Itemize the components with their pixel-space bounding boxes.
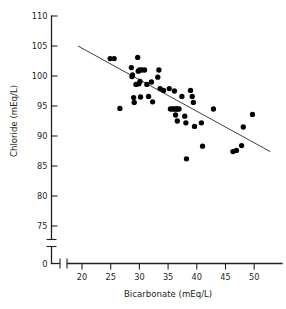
data-point	[142, 67, 147, 72]
data-point	[179, 94, 184, 99]
y-axis-tick-label: 85	[37, 161, 47, 171]
data-point	[130, 72, 135, 77]
data-point	[149, 79, 154, 84]
y-axis-tick-label: 110	[32, 11, 48, 21]
data-point	[129, 65, 134, 70]
data-point-group	[107, 55, 255, 162]
data-point	[250, 112, 255, 117]
data-point	[211, 106, 216, 111]
data-point	[172, 88, 177, 93]
data-point	[241, 124, 246, 129]
data-point	[175, 118, 180, 123]
y-axis-title: Chloride (mEq/L)	[9, 85, 19, 157]
x-axis-tick-label: 30	[134, 272, 144, 282]
data-point	[239, 143, 244, 148]
data-point	[132, 100, 137, 105]
data-point	[192, 124, 197, 129]
data-point	[146, 94, 151, 99]
x-axis-title: Bicarbonate (mEq/L)	[124, 289, 212, 299]
data-point	[131, 95, 136, 100]
data-point	[150, 99, 155, 104]
data-point	[183, 120, 188, 125]
data-point	[190, 94, 195, 99]
y-axis-tick-label: 80	[37, 191, 47, 201]
data-point	[137, 79, 142, 84]
data-point	[111, 56, 116, 61]
x-axis-tick-label: 50	[249, 272, 259, 282]
y-axis-tick-label: 75	[37, 221, 47, 231]
chart-canvas: 7580859095100105110020253035404550Bicarb…	[0, 0, 286, 309]
x-axis-tick-label: 40	[192, 272, 202, 282]
y-axis-tick-label: 100	[32, 71, 48, 81]
data-point	[199, 120, 204, 125]
data-point	[167, 86, 172, 91]
y-axis-origin-label: 0	[42, 259, 47, 269]
data-point	[234, 148, 239, 153]
y-axis-tick-label: 90	[37, 131, 47, 141]
data-point	[191, 100, 196, 105]
y-axis-tick-label: 95	[37, 101, 47, 111]
data-point	[138, 94, 143, 99]
data-point	[144, 82, 149, 87]
data-point	[200, 144, 205, 149]
data-point	[188, 88, 193, 93]
data-point	[155, 75, 160, 80]
data-point	[182, 114, 187, 119]
data-point	[176, 106, 181, 111]
data-point	[117, 106, 122, 111]
scatter-plot-figure: 7580859095100105110020253035404550Bicarb…	[0, 0, 286, 309]
data-point	[161, 88, 166, 93]
data-point	[156, 67, 161, 72]
data-point	[135, 55, 140, 60]
x-axis-tick-label: 25	[105, 272, 115, 282]
y-axis-tick-label: 105	[32, 41, 48, 51]
x-axis-tick-label: 45	[220, 272, 230, 282]
x-axis-tick-label: 35	[163, 272, 173, 282]
data-point	[184, 156, 189, 161]
regression-line	[78, 46, 270, 152]
data-point	[173, 112, 178, 117]
x-axis-tick-label: 20	[77, 272, 87, 282]
